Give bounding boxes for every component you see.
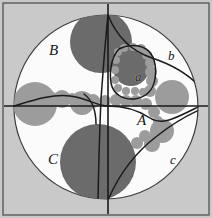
chain-circle [122,87,130,95]
chain-circle [111,66,119,74]
chain-circle [66,93,78,105]
figure-container: BbaACc [0,0,212,218]
chain-circle [131,137,143,149]
chain-circle [111,76,119,84]
chain-circle [131,87,139,95]
chain-circle [114,84,122,92]
mid-grey-circle [155,80,189,114]
circle-packing-diagram [0,0,212,218]
